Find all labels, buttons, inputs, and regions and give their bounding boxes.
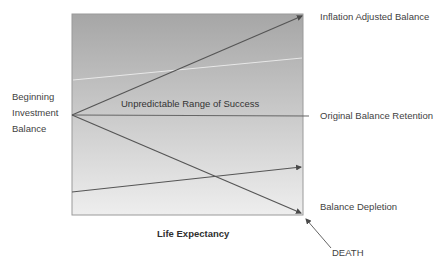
plot-area (72, 14, 303, 215)
inflation-adjusted-balance-label: Inflation Adjusted Balance (320, 9, 429, 25)
death-label: DEATH (332, 245, 364, 261)
balance-depletion-label: Balance Depletion (320, 199, 397, 215)
y-origin-line-1: Beginning (12, 89, 58, 105)
original-balance-retention-label: Original Balance Retention (320, 108, 433, 124)
y-origin-line-2: Investment (12, 105, 58, 121)
y-origin-line-3: Balance (12, 121, 58, 137)
unpredictable-range-label: Unpredictable Range of Success (121, 96, 259, 112)
life-expectancy-axis-label: Life Expectancy (157, 226, 229, 242)
death-pointer-arrow (306, 219, 331, 248)
beginning-investment-balance-label: Beginning Investment Balance (12, 89, 58, 137)
